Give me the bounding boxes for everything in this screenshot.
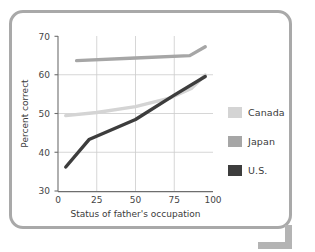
x-tick-label-2: 50 (130, 195, 142, 205)
legend-item-canada[interactable]: Canada (228, 102, 290, 123)
x-axis-title: Status of father's occupation (71, 209, 201, 219)
x-tick-label-4: 100 (204, 195, 221, 205)
x-tick-label-1: 25 (91, 195, 102, 205)
legend-label-japan: Japan (248, 136, 275, 147)
legend: Canada Japan U.S. (228, 102, 290, 189)
y-tick-label-0: 30 (39, 186, 51, 196)
legend-label-us: U.S. (248, 165, 267, 176)
x-tick-label-3: 75 (169, 195, 180, 205)
legend-swatch-us (228, 165, 242, 176)
y-axis-title: Percent correct (20, 79, 30, 148)
series-line-japan (77, 47, 206, 61)
y-tick-label-1: 40 (39, 148, 51, 158)
legend-swatch-canada (228, 107, 242, 118)
y-tick-label-4: 70 (39, 32, 51, 42)
figure-root: 30 40 50 60 70 0 25 50 75 100 Status of … (0, 0, 315, 252)
legend-swatch-japan (228, 136, 242, 147)
frame-bottom-accent (258, 242, 292, 249)
x-tick-label-0: 0 (55, 195, 61, 205)
y-tick-label-3: 60 (39, 70, 51, 80)
legend-item-us[interactable]: U.S. (228, 160, 290, 181)
y-tick-label-2: 50 (39, 109, 51, 119)
legend-item-japan[interactable]: Japan (228, 131, 290, 152)
legend-label-canada: Canada (248, 107, 285, 118)
